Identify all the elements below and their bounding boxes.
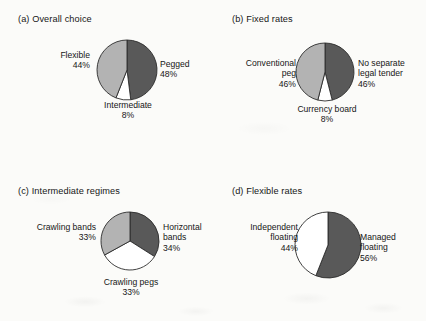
- slice-label-value: 44%: [234, 243, 298, 253]
- slice-label-value: 56%: [360, 253, 420, 263]
- panel-title-flexible-rates: (d) Flexible rates: [232, 186, 302, 196]
- pie-chart-flexible-rates: [292, 209, 364, 281]
- slice-label-name-line2: floating: [234, 232, 298, 242]
- slice-label: Managedfloating56%: [360, 232, 420, 263]
- figure-canvas: (a) Overall choicePegged48%Intermediate8…: [0, 0, 426, 321]
- slice-label-name: Independent: [234, 222, 298, 232]
- chart-panel-flexible-rates: (d) Flexible ratesManagedfloating56%Inde…: [0, 0, 426, 321]
- slice-label: Independentfloating44%: [234, 222, 298, 253]
- slice-label-name: Managed: [360, 232, 420, 242]
- pie-svg-flexible-rates: [292, 209, 364, 281]
- slice-label-name-line2: floating: [360, 242, 420, 252]
